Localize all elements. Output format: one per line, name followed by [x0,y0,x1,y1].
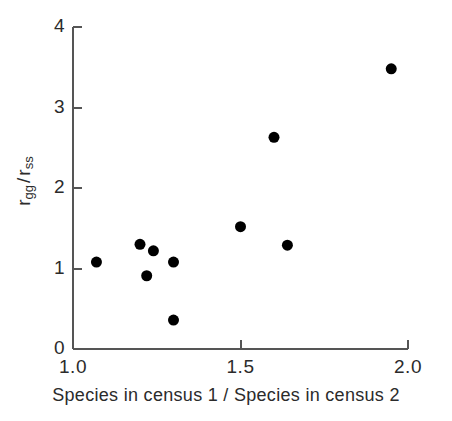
x-axis-ticks [73,340,408,349]
y-tick-label: 3 [25,96,65,118]
data-point [168,315,179,326]
y-tick-label: 4 [25,15,65,37]
x-axis-title: Species in census 1 / Species in census … [0,385,452,406]
scatter-plot-figure: 012341.01.52.0 rgg/rss Species in census… [0,0,452,421]
data-point [135,239,146,250]
data-point [148,245,159,256]
data-point [168,257,179,268]
axis-lines [73,27,408,349]
y-axis-ticks [73,27,82,349]
x-tick-label: 1.5 [206,356,276,378]
data-points [91,63,397,325]
data-point [141,270,152,281]
data-point [91,257,102,268]
x-tick-label: 1.0 [38,356,108,378]
y-axis-title: rgg/rss [13,121,35,241]
data-point [386,63,397,74]
data-point [282,240,293,251]
data-point [235,221,246,232]
y-tick-label: 1 [25,257,65,279]
x-tick-label: 2.0 [373,356,443,378]
data-point [269,132,280,143]
